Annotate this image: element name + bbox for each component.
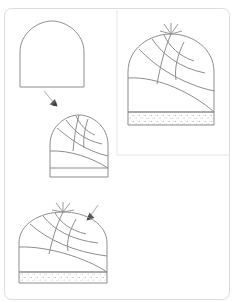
spiral-seam-1: [128, 78, 214, 112]
cursor-arrow-down-right: [44, 91, 58, 107]
spiral-seam-6: [175, 42, 184, 80]
cursor-arrow-down-left: [87, 205, 99, 221]
spiral-seam-6: [84, 119, 88, 148]
spiral-seam-6: [67, 219, 76, 251]
figure-step-4: [19, 202, 107, 283]
spiral-seam-2: [139, 49, 214, 91]
tuft-icon: [52, 202, 74, 212]
diagram-page: [0, 0, 234, 302]
tuft-icon: [160, 23, 182, 34]
figure-step-1: [20, 21, 84, 87]
brim-band: [128, 112, 214, 125]
spiral-seam-1: [19, 247, 107, 272]
brim-band: [19, 272, 107, 283]
spiral-seam-5: [49, 212, 63, 254]
figure-step-2: [50, 115, 108, 177]
dome-outline: [20, 21, 84, 87]
diagram-canvas: [0, 0, 234, 302]
figure-step-3: [128, 23, 214, 125]
spiral-seam-5: [157, 34, 171, 84]
